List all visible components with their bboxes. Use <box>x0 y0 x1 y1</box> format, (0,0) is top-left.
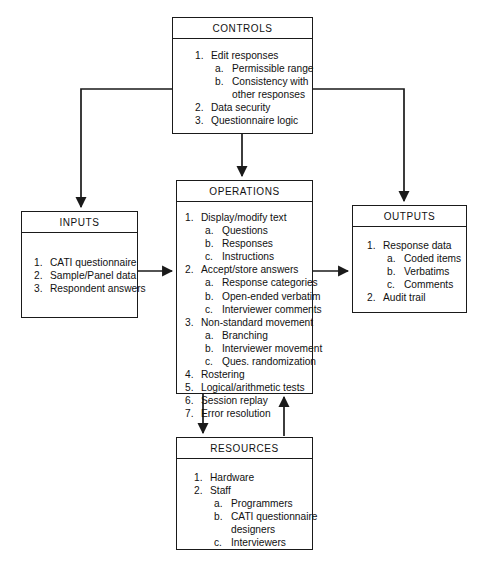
list-item: 5. Logical/arithmetic tests <box>185 381 312 394</box>
list-marker: a. <box>387 252 401 265</box>
list-text: Response data <box>367 239 466 252</box>
list-marker: a. <box>205 224 219 237</box>
list-marker: b. <box>205 237 219 250</box>
list-item: a. Programmers <box>214 497 312 510</box>
list-item: c. Interviewers <box>214 536 312 549</box>
list-marker: 3. <box>185 316 199 329</box>
list-text: Permissible range <box>215 62 312 75</box>
list-marker: a. <box>214 497 228 510</box>
list-marker: a. <box>215 62 229 75</box>
list-item: 3. Respondent answers <box>34 282 137 295</box>
list-marker: b. <box>215 75 229 88</box>
list-marker: c. <box>205 355 219 368</box>
list-marker: 1. <box>34 256 48 269</box>
list-text: Consistency with <box>215 75 312 88</box>
box-resources[interactable]: RESOURCES 1. Hardware 2. Staff a. Progra… <box>176 437 313 550</box>
list-text: Interviewer comments <box>205 303 312 316</box>
list-item: 1. Hardware <box>194 471 312 484</box>
box-outputs-title: OUTPUTS <box>353 206 466 227</box>
connector-controls-to-inputs <box>81 89 172 207</box>
list-marker: b. <box>205 342 219 355</box>
list-marker: b. <box>387 265 401 278</box>
box-outputs-body: 1. Response data a. Coded items b. Verba… <box>353 227 466 304</box>
box-inputs[interactable]: INPUTS 1. CATI questionnaire 2. Sample/P… <box>21 211 138 318</box>
connector-controls-to-outputs <box>312 89 404 201</box>
box-inputs-body: 1. CATI questionnaire 2. Sample/Panel da… <box>22 233 137 295</box>
list-text: Interviewer movement <box>205 342 312 355</box>
list-item: a. Permissible range <box>215 62 312 75</box>
list-text: Audit trail <box>367 291 466 304</box>
box-operations[interactable]: OPERATIONS 1. Display/modify text a. Que… <box>176 180 313 394</box>
list-marker: 2. <box>185 263 199 276</box>
list-item: 4. Rostering <box>185 368 312 381</box>
list-marker: 1. <box>194 471 208 484</box>
list-item: 2. Accept/store answers a. Response cate… <box>185 263 312 315</box>
list-marker: c. <box>214 536 228 549</box>
list-text: Response categories <box>205 276 312 289</box>
list-item: 1. Display/modify text a. Questions b. R… <box>185 211 312 263</box>
list-text: Branching <box>205 329 312 342</box>
list-item: 7. Error resolution <box>185 407 312 420</box>
box-resources-title: RESOURCES <box>177 438 312 459</box>
list-item: 2. Audit trail <box>367 291 466 304</box>
list-item: 2. Sample/Panel data <box>34 269 137 282</box>
list-text: Error resolution <box>185 407 312 420</box>
list-item: b. Responses <box>205 237 312 250</box>
list-marker: 3. <box>195 114 209 127</box>
box-inputs-title: INPUTS <box>22 212 137 233</box>
list-item: 3. Non-standard movement a. Branching b.… <box>185 316 312 368</box>
list-marker: 5. <box>185 381 199 394</box>
box-operations-body: 1. Display/modify text a. Questions b. R… <box>177 202 312 421</box>
list-marker: c. <box>205 250 219 263</box>
list-item: a. Coded items <box>387 252 466 265</box>
list-text-continuation: other responses <box>215 88 312 101</box>
list-text: Non-standard movement <box>185 316 312 329</box>
list-text: Rostering <box>185 368 312 381</box>
list-item: c. Instructions <box>205 250 312 263</box>
list-item: b. Interviewer movement <box>205 342 312 355</box>
list-item: c. Ques. randomization <box>205 355 312 368</box>
list-text-continuation: designers <box>214 523 312 536</box>
list-item: 1. Response data a. Coded items b. Verba… <box>367 239 466 291</box>
list-marker: 4. <box>185 368 199 381</box>
list-marker: b. <box>205 290 219 303</box>
list-marker: 2. <box>367 291 381 304</box>
list-text: Session replay <box>185 394 312 407</box>
list-item: b. Open-ended verbatim <box>205 290 312 303</box>
list-marker: a. <box>205 329 219 342</box>
list-item: a. Questions <box>205 224 312 237</box>
list-marker: 7. <box>185 407 199 420</box>
list-item: 1. CATI questionnaire <box>34 256 137 269</box>
list-item: 3. Questionnaire logic <box>195 114 312 127</box>
list-text: Respondent answers <box>34 282 137 295</box>
list-marker: 1. <box>195 49 209 62</box>
list-text: Programmers <box>214 497 312 510</box>
list-text: Data security <box>195 101 312 114</box>
list-text: CATI questionnaire <box>34 256 137 269</box>
list-text: Responses <box>205 237 312 250</box>
list-marker: 6. <box>185 394 199 407</box>
list-text: Staff <box>194 484 312 497</box>
list-marker: c. <box>205 303 219 316</box>
list-text: Sample/Panel data <box>34 269 137 282</box>
list-marker: c. <box>387 278 401 291</box>
list-text: Interviewers <box>214 536 312 549</box>
box-controls[interactable]: CONTROLS 1. Edit responses a. Permissibl… <box>172 17 313 134</box>
box-resources-body: 1. Hardware 2. Staff a. Programmers b. C… <box>177 459 312 550</box>
list-marker: 2. <box>194 484 208 497</box>
list-marker: a. <box>205 276 219 289</box>
list-marker: 3. <box>34 282 48 295</box>
list-item: 6. Session replay <box>185 394 312 407</box>
box-controls-title: CONTROLS <box>173 18 312 39</box>
box-outputs[interactable]: OUTPUTS 1. Response data a. Coded items … <box>352 205 467 313</box>
list-item: b. Verbatims <box>387 265 466 278</box>
list-text: Questionnaire logic <box>195 114 312 127</box>
list-marker: 1. <box>185 211 199 224</box>
list-text: Edit responses <box>195 49 312 62</box>
list-text: Instructions <box>205 250 312 263</box>
list-text: Logical/arithmetic tests <box>185 381 312 394</box>
list-text: Ques. randomization <box>205 355 312 368</box>
box-operations-title: OPERATIONS <box>177 181 312 202</box>
list-item: a. Branching <box>205 329 312 342</box>
diagram-canvas: CONTROLS 1. Edit responses a. Permissibl… <box>0 0 484 572</box>
